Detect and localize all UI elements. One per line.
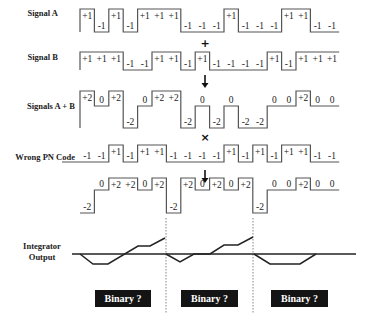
binary-decision-boxes: Binary ?Binary ?Binary ? bbox=[95, 290, 328, 307]
chip-value: +1 bbox=[169, 11, 179, 21]
chip-value: +1 bbox=[140, 11, 150, 21]
binary-box-3: Binary ? bbox=[271, 290, 328, 307]
chip-value: -1 bbox=[227, 59, 235, 69]
wrong-pn-code-label: Wrong PN Code bbox=[15, 152, 75, 162]
chip-value: -1 bbox=[126, 59, 134, 69]
chip-value: 0 bbox=[229, 95, 234, 105]
chip-value: +1 bbox=[255, 147, 265, 157]
signal-b-row: Signal B+1+1+1-1-1+1+1-1+1-1-1-1-1+1-1+1… bbox=[28, 52, 340, 70]
chip-value: -1 bbox=[126, 151, 134, 161]
chip-value: +1 bbox=[97, 54, 107, 64]
chip-value: -2 bbox=[256, 202, 264, 212]
chip-value: -2 bbox=[184, 117, 192, 127]
chip-value: +2 bbox=[298, 93, 308, 103]
chip-value: +1 bbox=[298, 11, 308, 21]
integrator-trace bbox=[166, 237, 253, 262]
chip-value: +1 bbox=[111, 11, 121, 21]
wrong-pn-code-row: Wrong PN Code-1-1+1-1+1+1-1-1-1-1+1-1+1-… bbox=[15, 145, 339, 162]
chip-value: 0 bbox=[200, 95, 205, 105]
chip-value: -1 bbox=[98, 21, 106, 31]
chip-value: -1 bbox=[184, 151, 192, 161]
chip-value: +1 bbox=[154, 54, 164, 64]
chip-value: +2 bbox=[169, 93, 179, 103]
binary-box-label: Binary ? bbox=[105, 293, 142, 304]
chip-value: +1 bbox=[298, 54, 308, 64]
chip-value: +1 bbox=[82, 54, 92, 64]
chip-value: 0 bbox=[99, 179, 104, 189]
chip-value: -1 bbox=[242, 21, 250, 31]
chip-value: -1 bbox=[213, 59, 221, 69]
integrator-label-line2: Output bbox=[29, 252, 56, 262]
chip-value: +1 bbox=[284, 147, 294, 157]
chip-value: 0 bbox=[272, 179, 277, 189]
chip-value: +2 bbox=[154, 180, 164, 190]
chip-value: +1 bbox=[140, 147, 150, 157]
chip-value: -1 bbox=[126, 21, 134, 31]
integrator-trace bbox=[80, 238, 165, 264]
chip-value: +2 bbox=[111, 180, 121, 190]
chip-value: +1 bbox=[313, 54, 323, 64]
chip-value: -1 bbox=[170, 151, 178, 161]
chip-value: -1 bbox=[83, 151, 91, 161]
chip-value: -1 bbox=[213, 21, 221, 31]
binary-box-label: Binary ? bbox=[191, 293, 228, 304]
despread-product-row: -20+2+20+2-2+20+20+2-200+200 bbox=[80, 178, 339, 213]
chip-value: +1 bbox=[269, 54, 279, 64]
chip-value: -2 bbox=[83, 202, 91, 212]
binary-box-1: Binary ? bbox=[95, 290, 151, 307]
chip-value: -1 bbox=[198, 151, 206, 161]
chip-value: 0 bbox=[315, 95, 320, 105]
chip-value: +2 bbox=[212, 180, 222, 190]
integrator-label-line1: Integrator bbox=[23, 241, 61, 251]
down-arrow-icon bbox=[202, 75, 209, 88]
chip-value: +1 bbox=[154, 11, 164, 21]
chip-value: +1 bbox=[298, 147, 308, 157]
plus-operator: + bbox=[200, 37, 209, 50]
chip-value: -1 bbox=[285, 59, 293, 69]
chip-value: -1 bbox=[184, 59, 192, 69]
chip-value: 0 bbox=[315, 179, 320, 189]
chip-value: -1 bbox=[328, 151, 336, 161]
chip-value: -1 bbox=[270, 151, 278, 161]
chip-value: +2 bbox=[82, 93, 92, 103]
chip-value: 0 bbox=[330, 95, 335, 105]
chip-value: +1 bbox=[82, 11, 92, 21]
chip-value: -1 bbox=[256, 59, 264, 69]
chip-value: -2 bbox=[242, 117, 250, 127]
chip-value: 0 bbox=[272, 95, 277, 105]
chip-value: -1 bbox=[198, 21, 206, 31]
integrator-trace bbox=[254, 254, 316, 264]
chip-value: 0 bbox=[142, 179, 147, 189]
chip-value: +1 bbox=[226, 147, 236, 157]
cdma-despreading-diagram: Signal A+1-1+1-1+1+1+1-1-1-1+1-1-1-1+1+1… bbox=[0, 0, 371, 323]
signal-a-label: Signal A bbox=[28, 8, 59, 18]
binary-box-2: Binary ? bbox=[181, 290, 238, 307]
chip-value: +2 bbox=[111, 93, 121, 103]
chip-value: 0 bbox=[142, 95, 147, 105]
chip-value: 0 bbox=[286, 95, 291, 105]
chip-value: -1 bbox=[98, 151, 106, 161]
binary-box-label: Binary ? bbox=[281, 293, 318, 304]
chip-value: -1 bbox=[328, 21, 336, 31]
chip-value: +2 bbox=[183, 180, 193, 190]
chip-value: -1 bbox=[256, 21, 264, 31]
signal-b-label: Signal B bbox=[28, 52, 59, 62]
chip-value: 0 bbox=[229, 179, 234, 189]
chip-value: +1 bbox=[111, 54, 121, 64]
chip-value: +1 bbox=[197, 54, 207, 64]
chip-value: -1 bbox=[314, 151, 322, 161]
chip-value: -1 bbox=[242, 151, 250, 161]
chip-value: 0 bbox=[330, 179, 335, 189]
chip-value: +2 bbox=[241, 180, 251, 190]
signals-a-plus-b-row: Signals A + B+20+2-20+2+2-20-20-2-200+20… bbox=[27, 91, 339, 128]
chip-value: -1 bbox=[270, 21, 278, 31]
chip-value: 0 bbox=[99, 95, 104, 105]
chip-value: -1 bbox=[314, 21, 322, 31]
chip-value: +2 bbox=[154, 93, 164, 103]
chip-value: -2 bbox=[126, 117, 134, 127]
chip-value: -1 bbox=[213, 151, 221, 161]
chip-value: +1 bbox=[284, 11, 294, 21]
chip-value: -1 bbox=[184, 21, 192, 31]
chip-value: -1 bbox=[242, 59, 250, 69]
chip-value: +2 bbox=[298, 180, 308, 190]
